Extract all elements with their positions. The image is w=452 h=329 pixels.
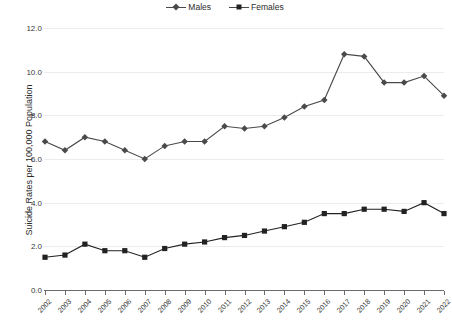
data-point-females <box>162 246 167 251</box>
data-point-males <box>42 138 49 145</box>
data-point-females <box>242 233 247 238</box>
data-point-females <box>182 242 187 247</box>
data-point-females <box>262 228 267 233</box>
data-point-females <box>322 211 327 216</box>
data-point-females <box>122 248 127 253</box>
data-point-females <box>62 252 67 257</box>
data-point-males <box>401 79 408 86</box>
data-point-females <box>382 207 387 212</box>
data-point-females <box>302 220 307 225</box>
data-point-males <box>122 147 129 154</box>
data-point-females <box>282 224 287 229</box>
data-point-males <box>241 125 248 132</box>
data-point-males <box>301 103 308 110</box>
data-point-females <box>342 211 347 216</box>
data-point-females <box>362 207 367 212</box>
data-point-females <box>441 211 446 216</box>
data-point-females <box>102 248 107 253</box>
data-point-males <box>281 114 288 121</box>
data-point-males <box>82 134 89 141</box>
data-point-males <box>161 143 168 150</box>
data-point-males <box>62 147 69 154</box>
data-point-females <box>421 200 426 205</box>
data-point-males <box>341 51 348 58</box>
data-point-females <box>202 239 207 244</box>
data-point-males <box>321 97 328 104</box>
data-point-males <box>102 138 109 145</box>
data-point-females <box>402 209 407 214</box>
data-point-females <box>42 255 47 260</box>
data-point-males <box>261 123 268 130</box>
data-point-females <box>82 242 87 247</box>
data-point-males <box>141 156 148 163</box>
data-point-females <box>142 255 147 260</box>
data-point-males <box>181 138 188 145</box>
data-point-females <box>222 235 227 240</box>
